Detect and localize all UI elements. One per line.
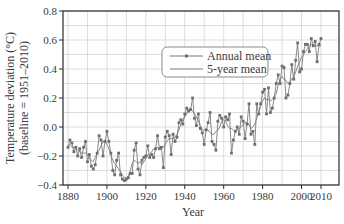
data-point-marker bbox=[240, 115, 243, 118]
x-axis-ticks: 18801900192019401960198020002010 bbox=[57, 185, 333, 202]
data-point-marker bbox=[197, 113, 200, 116]
data-point-marker bbox=[273, 97, 276, 100]
y-axis-title: Temperature deviation (°C) bbox=[3, 32, 17, 164]
data-point-marker bbox=[195, 124, 198, 127]
data-point-marker bbox=[201, 131, 204, 134]
data-point-marker bbox=[82, 146, 85, 149]
data-point-marker bbox=[183, 113, 186, 116]
data-point-marker bbox=[193, 117, 196, 120]
data-point-marker bbox=[300, 68, 303, 71]
data-point-marker bbox=[172, 133, 175, 136]
data-point-marker bbox=[308, 50, 311, 53]
data-point-marker bbox=[269, 111, 272, 114]
data-point-marker bbox=[150, 153, 153, 156]
data-point-marker bbox=[238, 133, 241, 136]
data-point-marker bbox=[181, 123, 184, 126]
data-point-marker bbox=[185, 107, 188, 110]
data-point-marker bbox=[209, 111, 212, 114]
y-tick-label: 0.0 bbox=[43, 121, 57, 133]
data-point-marker bbox=[115, 159, 118, 162]
data-point-marker bbox=[156, 134, 159, 137]
data-point-marker bbox=[168, 134, 171, 137]
data-point-marker bbox=[283, 66, 286, 69]
data-point-marker bbox=[133, 149, 136, 152]
x-axis-title: Year bbox=[182, 205, 204, 219]
data-point-marker bbox=[102, 155, 105, 158]
y-tick-label: 0.2 bbox=[43, 92, 57, 104]
data-point-marker bbox=[277, 73, 280, 76]
data-point-marker bbox=[248, 102, 251, 105]
data-point-marker bbox=[263, 88, 266, 91]
data-point-marker bbox=[179, 118, 182, 121]
data-point-marker bbox=[259, 102, 262, 105]
data-point-marker bbox=[320, 37, 323, 40]
y-tick-label: −0.4 bbox=[37, 179, 57, 191]
data-point-marker bbox=[137, 168, 140, 171]
data-point-marker bbox=[267, 86, 270, 89]
data-point-marker bbox=[90, 165, 93, 168]
data-point-marker bbox=[236, 126, 239, 129]
data-point-marker bbox=[287, 94, 290, 97]
data-point-marker bbox=[298, 71, 301, 74]
data-point-marker bbox=[86, 160, 89, 163]
data-point-marker bbox=[100, 139, 103, 142]
data-point-marker bbox=[92, 168, 95, 171]
data-point-marker bbox=[213, 143, 216, 146]
data-point-marker bbox=[310, 37, 313, 40]
data-point-marker bbox=[203, 143, 206, 146]
data-point-marker bbox=[152, 156, 155, 159]
data-point-marker bbox=[191, 97, 194, 100]
data-point-marker bbox=[246, 123, 249, 126]
data-point-marker bbox=[288, 82, 291, 85]
data-point-marker bbox=[106, 130, 109, 133]
data-point-marker bbox=[113, 173, 116, 176]
data-point-marker bbox=[230, 152, 233, 155]
data-point-marker bbox=[189, 108, 192, 111]
data-point-marker bbox=[211, 140, 214, 143]
data-point-marker bbox=[257, 113, 260, 116]
data-point-marker bbox=[80, 156, 83, 159]
data-point-marker bbox=[228, 113, 231, 116]
data-point-marker bbox=[154, 147, 157, 150]
data-point-marker bbox=[84, 140, 87, 143]
data-point-marker bbox=[178, 121, 181, 124]
data-point-marker bbox=[251, 130, 254, 133]
data-point-marker bbox=[234, 130, 237, 133]
data-point-marker bbox=[74, 146, 77, 149]
data-point-marker bbox=[139, 173, 142, 176]
data-point-marker bbox=[88, 153, 91, 156]
data-point-marker bbox=[162, 166, 165, 169]
data-point-marker bbox=[176, 136, 179, 139]
data-point-marker bbox=[290, 63, 293, 66]
data-point-marker bbox=[312, 44, 315, 47]
data-point-marker bbox=[220, 117, 223, 120]
data-point-marker bbox=[70, 142, 73, 145]
x-tick-label: 1980 bbox=[252, 190, 275, 202]
data-point-marker bbox=[166, 130, 169, 133]
y-axis-ticks: −0.4−0.20.00.20.40.60.8 bbox=[37, 5, 63, 191]
y-axis-subtitle: (baseline = 1951–2010) bbox=[17, 41, 31, 155]
data-point-marker bbox=[164, 136, 167, 139]
data-point-marker bbox=[127, 176, 130, 179]
legend: Annual mean 5-year mean bbox=[162, 47, 271, 77]
data-point-marker bbox=[104, 140, 107, 143]
grid-lines bbox=[63, 11, 339, 185]
data-point-marker bbox=[144, 155, 147, 158]
data-point-marker bbox=[78, 147, 81, 150]
data-point-marker bbox=[250, 133, 253, 136]
data-point-marker bbox=[242, 120, 245, 123]
data-point-marker bbox=[224, 115, 227, 118]
data-point-marker bbox=[207, 121, 210, 124]
data-point-marker bbox=[306, 43, 309, 46]
data-point-marker bbox=[135, 142, 138, 145]
data-point-marker bbox=[107, 140, 110, 143]
data-point-marker bbox=[76, 155, 79, 158]
data-point-marker bbox=[226, 118, 229, 121]
data-point-marker bbox=[218, 114, 221, 117]
y-tick-label: 0.8 bbox=[43, 5, 57, 17]
data-point-marker bbox=[253, 143, 256, 146]
legend-annual-label: Annual mean bbox=[207, 49, 271, 63]
data-point-marker bbox=[285, 97, 288, 100]
data-point-marker bbox=[117, 152, 120, 155]
y-tick-label: 0.4 bbox=[43, 63, 57, 75]
